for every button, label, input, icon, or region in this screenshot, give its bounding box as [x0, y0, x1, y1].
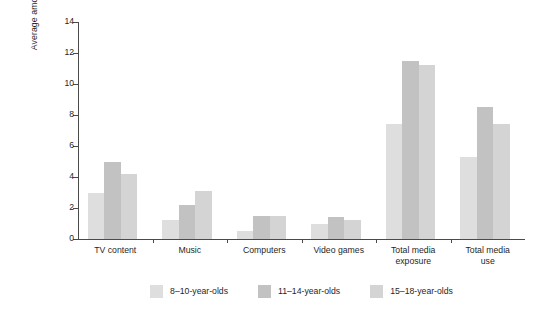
x-axis-category-label: Computers — [227, 245, 302, 256]
bar — [419, 65, 436, 239]
bar — [162, 220, 179, 239]
x-axis-category-label: TV content — [78, 245, 153, 256]
x-axis-category-line: Total media — [376, 245, 451, 256]
bar — [493, 124, 510, 239]
legend-label: 11–14-year-olds — [278, 286, 340, 296]
y-axis-tick-label: 8 — [52, 110, 74, 119]
bar — [88, 193, 105, 240]
x-axis-separator — [376, 239, 377, 243]
y-axis-tick-label: 4 — [52, 172, 74, 181]
bar — [402, 61, 419, 239]
x-axis-category-label: Video games — [302, 245, 377, 256]
bar — [386, 124, 403, 239]
bar-group — [460, 22, 510, 239]
y-axis-tick-label: 10 — [52, 79, 74, 88]
bar — [311, 224, 328, 240]
media-use-bar-chart: Average amount of time spent with media … — [0, 0, 547, 316]
x-axis-separator — [153, 239, 154, 243]
x-axis-category-line: TV content — [78, 245, 153, 256]
y-axis-tick-label: 2 — [52, 203, 74, 212]
bar — [253, 216, 270, 239]
x-axis-separator — [302, 239, 303, 243]
x-axis-category-label: Music — [153, 245, 228, 256]
x-axis-category-line: Video games — [302, 245, 377, 256]
x-axis-category-line: use — [451, 256, 526, 267]
bar — [121, 174, 138, 239]
x-axis-category-line: Computers — [227, 245, 302, 256]
bar — [179, 205, 196, 239]
legend-item[interactable]: 15–18-year-olds — [370, 285, 453, 298]
bar — [477, 107, 494, 239]
bar — [104, 162, 121, 240]
x-axis-category-line: Music — [153, 245, 228, 256]
x-axis-category-label: Total mediaexposure — [376, 245, 451, 266]
x-axis-category-line: exposure — [376, 256, 451, 267]
bar — [195, 191, 212, 239]
plot-area — [78, 22, 525, 239]
bar — [344, 220, 361, 239]
bar-group — [237, 22, 287, 239]
bar — [237, 231, 254, 239]
legend-label: 15–18-year-olds — [390, 286, 453, 296]
legend-label: 8–10-year-olds — [170, 286, 228, 296]
bar — [460, 157, 477, 239]
bar-group — [386, 22, 436, 239]
y-axis-tick-label: 0 — [52, 234, 74, 243]
legend-item[interactable]: 11–14-year-olds — [258, 285, 340, 298]
bar-group — [88, 22, 138, 239]
bar — [328, 217, 345, 239]
x-axis-separator — [227, 239, 228, 243]
x-axis-separator — [451, 239, 452, 243]
legend-item[interactable]: 8–10-year-olds — [150, 285, 228, 298]
bar-group — [162, 22, 212, 239]
legend-swatch-icon — [150, 285, 163, 298]
x-axis-category-label: Total mediause — [451, 245, 526, 266]
y-axis-tick-label: 12 — [52, 48, 74, 57]
y-axis-tick-label: 6 — [52, 141, 74, 150]
y-axis-title-text: Average amount of time spent with media … — [29, 0, 52, 54]
y-axis-tick-label: 14 — [52, 17, 74, 26]
x-axis-category-line: Total media — [451, 245, 526, 256]
bar — [270, 216, 287, 239]
bar-group — [311, 22, 361, 239]
legend-swatch-icon — [370, 285, 383, 298]
legend-swatch-icon — [258, 285, 271, 298]
chart-legend: 8–10-year-olds11–14-year-olds15–18-year-… — [78, 281, 525, 301]
